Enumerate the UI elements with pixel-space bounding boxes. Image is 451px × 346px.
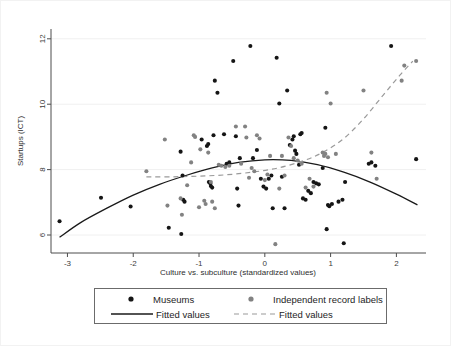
legend-label-fitted-dashed: Fitted values: [279, 309, 333, 320]
data-point: [292, 134, 296, 138]
data-point: [361, 88, 365, 92]
data-point: [179, 196, 183, 200]
data-point: [206, 142, 210, 146]
data-point: [179, 150, 183, 154]
data-point: [250, 166, 254, 170]
data-point: [234, 134, 238, 138]
data-point: [275, 56, 279, 60]
data-point: [283, 206, 287, 210]
data-point: [300, 162, 304, 166]
y-tick-label: 12: [38, 34, 47, 43]
data-point: [251, 156, 255, 160]
figure-container: 681012 -3-2-1012 Culture vs. subculture …: [0, 0, 451, 346]
x-tick-label: 2: [394, 259, 399, 268]
data-point: [252, 169, 256, 173]
data-point: [197, 205, 201, 209]
data-point: [300, 131, 304, 135]
x-axis-ticks: -3-2-1012: [64, 253, 399, 268]
x-tick-label: -3: [64, 259, 72, 268]
data-point: [373, 164, 377, 168]
data-point: [317, 182, 321, 186]
data-point: [414, 59, 418, 63]
data-point: [255, 148, 259, 152]
data-point: [234, 124, 238, 128]
data-point: [321, 166, 325, 170]
data-point: [185, 183, 189, 187]
data-point: [342, 241, 346, 245]
data-point: [309, 191, 313, 195]
data-point: [213, 79, 217, 83]
data-point: [259, 177, 263, 181]
data-point: [311, 185, 315, 189]
legend-label-record-labels: Independent record labels: [273, 294, 383, 305]
series-fitted-museums: [60, 160, 418, 238]
legend-marker-record-labels: [248, 296, 253, 301]
data-point: [323, 126, 327, 130]
legend: Museums Independent record labels Fitted…: [95, 289, 387, 324]
axes: [51, 29, 426, 253]
data-point: [286, 136, 290, 140]
data-point: [369, 151, 373, 155]
data-point: [247, 176, 251, 180]
data-point: [236, 204, 240, 208]
data-point: [206, 151, 210, 155]
data-point: [163, 137, 167, 141]
data-point: [264, 187, 268, 191]
data-point: [369, 160, 373, 164]
data-point: [343, 180, 347, 184]
legend-label-fitted-solid: Fitted values: [156, 309, 210, 320]
data-point: [308, 177, 312, 181]
data-point: [209, 180, 213, 184]
data-point: [389, 44, 393, 48]
data-point: [231, 59, 235, 63]
legend-label-museums: Museums: [153, 294, 194, 305]
data-point: [238, 156, 242, 160]
data-point: [222, 132, 226, 136]
series-points-museums: [58, 44, 419, 245]
data-point: [336, 200, 340, 204]
data-point: [375, 177, 379, 181]
y-tick-label: 6: [38, 232, 47, 237]
data-point: [402, 64, 406, 68]
data-point: [258, 137, 262, 141]
data-point: [144, 169, 148, 173]
data-point: [325, 227, 329, 231]
data-point: [277, 102, 281, 106]
data-point: [210, 186, 214, 190]
data-point: [294, 152, 298, 156]
data-point: [289, 144, 293, 148]
data-point: [244, 136, 248, 140]
data-point: [400, 79, 404, 83]
data-point: [180, 213, 184, 217]
data-point: [204, 202, 208, 206]
x-tick-label: -2: [130, 259, 138, 268]
data-point: [165, 204, 169, 208]
data-point: [239, 162, 243, 166]
data-point: [325, 91, 329, 95]
data-point: [329, 102, 333, 106]
data-point: [296, 158, 300, 162]
data-point: [326, 155, 330, 159]
data-point: [271, 206, 275, 210]
data-point: [277, 187, 281, 191]
data-point: [265, 172, 269, 176]
data-point: [323, 152, 327, 156]
data-point: [292, 156, 296, 160]
data-point: [340, 198, 344, 202]
legend-marker-museums: [128, 296, 133, 301]
data-point: [99, 196, 103, 200]
data-point: [215, 91, 219, 95]
data-point: [304, 198, 308, 202]
data-point: [285, 88, 289, 92]
data-point: [210, 200, 214, 204]
data-point: [243, 124, 247, 128]
data-point: [334, 152, 338, 156]
data-point: [267, 177, 271, 181]
x-tick-label: 0: [263, 259, 268, 268]
data-point: [263, 178, 267, 182]
data-point: [304, 186, 308, 190]
data-point: [198, 147, 202, 151]
data-point: [211, 133, 215, 137]
data-point: [268, 154, 272, 158]
data-point: [129, 205, 133, 209]
